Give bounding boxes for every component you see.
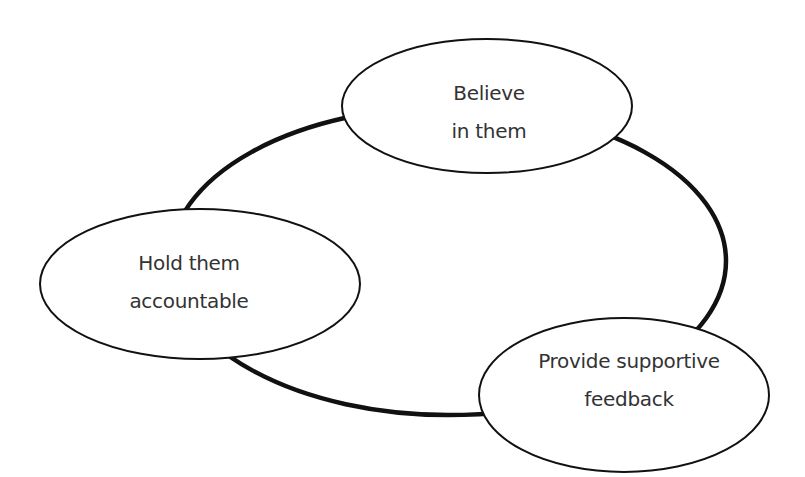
node-believe-line2: in them bbox=[452, 112, 527, 150]
node-believe: Believe in them bbox=[452, 74, 527, 150]
node-feedback: Provide supportive feedback bbox=[538, 342, 720, 418]
node-feedback-line2: feedback bbox=[538, 380, 720, 418]
node-feedback-line1: Provide supportive bbox=[538, 342, 720, 380]
node-accountable: Hold them accountable bbox=[129, 244, 248, 320]
node-accountable-line2: accountable bbox=[129, 282, 248, 320]
node-believe-line1: Believe bbox=[452, 74, 527, 112]
node-accountable-line1: Hold them bbox=[129, 244, 248, 282]
